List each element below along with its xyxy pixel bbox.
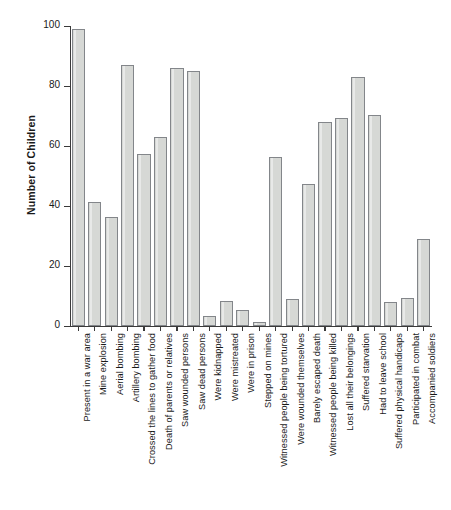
x-tick <box>308 326 309 331</box>
x-tick <box>275 326 276 331</box>
y-tick: 80 <box>64 86 70 87</box>
y-tick-label: 80 <box>49 79 60 90</box>
x-tick <box>341 326 342 331</box>
x-tick <box>357 326 358 331</box>
x-tick <box>407 326 408 331</box>
bar <box>417 239 430 326</box>
x-tick <box>259 326 260 331</box>
bar <box>384 302 397 326</box>
bar <box>368 115 381 327</box>
y-tick-label: 100 <box>43 19 60 30</box>
x-tick <box>127 326 128 331</box>
bar <box>269 157 282 327</box>
bar <box>154 137 167 326</box>
bar <box>318 122 331 326</box>
bar <box>220 301 233 327</box>
y-tick: 20 <box>64 266 70 267</box>
y-tick-label: 20 <box>49 259 60 270</box>
bar <box>302 184 315 327</box>
plot-area: 020406080100 <box>70 26 432 326</box>
x-tick <box>143 326 144 331</box>
y-tick: 100 <box>64 26 70 27</box>
bar <box>203 316 216 327</box>
bar <box>121 65 134 326</box>
y-tick: 0 <box>64 326 70 327</box>
bar <box>187 71 200 326</box>
bar <box>137 154 150 327</box>
x-axis-label-group: Present in a war areaMine explosionAeria… <box>70 333 432 508</box>
x-tick <box>242 326 243 331</box>
bar <box>236 310 249 327</box>
y-tick-label: 0 <box>54 319 60 330</box>
bar <box>170 68 183 326</box>
y-tick-label: 40 <box>49 199 60 210</box>
x-tick <box>209 326 210 331</box>
bar <box>105 217 118 327</box>
x-tick <box>423 326 424 331</box>
bar <box>286 299 299 326</box>
x-tick <box>324 326 325 331</box>
x-tick <box>226 326 227 331</box>
x-tick <box>160 326 161 331</box>
x-tick <box>374 326 375 331</box>
y-tick-label: 60 <box>49 139 60 150</box>
x-tick <box>94 326 95 331</box>
bar <box>401 298 414 327</box>
bar <box>72 29 85 326</box>
bar <box>351 77 364 326</box>
x-tick <box>111 326 112 331</box>
y-axis-title: Number of Children <box>18 0 44 330</box>
x-tick <box>390 326 391 331</box>
x-tick <box>193 326 194 331</box>
x-tick <box>78 326 79 331</box>
y-tick: 40 <box>64 206 70 207</box>
y-axis-title-text: Number of Children <box>25 115 37 215</box>
x-tick <box>176 326 177 331</box>
bar <box>335 118 348 327</box>
x-axis-line <box>69 326 432 327</box>
x-tick <box>292 326 293 331</box>
bar <box>88 202 101 327</box>
bar <box>253 322 266 327</box>
bar-chart: Number of Children 020406080100 Present … <box>0 0 451 510</box>
y-tick: 60 <box>64 146 70 147</box>
